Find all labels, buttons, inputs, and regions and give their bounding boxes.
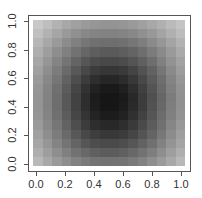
heatmap-cell bbox=[109, 20, 119, 29]
heatmap-cell bbox=[176, 20, 186, 29]
heatmap-cell bbox=[109, 157, 119, 166]
heatmap-cell bbox=[43, 57, 53, 66]
heatmap-cell bbox=[33, 20, 43, 29]
heatmap-cell bbox=[119, 47, 129, 56]
heatmap-cell bbox=[147, 102, 157, 111]
heatmap-cell bbox=[138, 20, 148, 29]
heatmap-cell bbox=[71, 38, 81, 47]
heatmap-cell bbox=[33, 57, 43, 66]
x-tick-label: 0.4 bbox=[79, 178, 109, 190]
heatmap-cell bbox=[90, 157, 100, 166]
heatmap-cell bbox=[33, 47, 43, 56]
heatmap-cell bbox=[43, 84, 53, 93]
heatmap-cell bbox=[119, 57, 129, 66]
heatmap-cell bbox=[147, 20, 157, 29]
heatmap-cell bbox=[109, 148, 119, 157]
heatmap-cell bbox=[43, 66, 53, 75]
heatmap-cell bbox=[100, 66, 110, 75]
heatmap-cell bbox=[166, 102, 176, 111]
heatmap-cell bbox=[119, 84, 129, 93]
heatmap-cell bbox=[157, 75, 167, 84]
heatmap-cell bbox=[119, 157, 129, 166]
heatmap-cell bbox=[166, 75, 176, 84]
heatmap-cell bbox=[157, 29, 167, 38]
heatmap-cell bbox=[81, 102, 91, 111]
heatmap-cell bbox=[166, 120, 176, 129]
heatmap-cell bbox=[62, 93, 72, 102]
heatmap-cell bbox=[100, 130, 110, 139]
y-tick-label: 1.0 bbox=[6, 6, 20, 36]
heatmap-cell bbox=[128, 102, 138, 111]
heatmap-cell bbox=[119, 38, 129, 47]
heatmap-cell bbox=[100, 29, 110, 38]
heatmap-cell bbox=[43, 102, 53, 111]
y-tick-label: 0.4 bbox=[6, 92, 20, 122]
heatmap-cell bbox=[90, 38, 100, 47]
heatmap-cell bbox=[147, 130, 157, 139]
heatmap-cell bbox=[81, 84, 91, 93]
heatmap-cell bbox=[147, 120, 157, 129]
x-tick-label: 1.0 bbox=[166, 178, 196, 190]
heatmap-cell bbox=[71, 139, 81, 148]
heatmap-cell bbox=[62, 157, 72, 166]
heatmap-cell bbox=[147, 75, 157, 84]
heatmap-cell bbox=[147, 148, 157, 157]
y-tick bbox=[24, 50, 28, 51]
heatmap-cell bbox=[52, 66, 62, 75]
heatmap-cell bbox=[119, 120, 129, 129]
heatmap-cell bbox=[71, 157, 81, 166]
heatmap-cell bbox=[62, 75, 72, 84]
heatmap-cell bbox=[109, 57, 119, 66]
heatmap-cell bbox=[52, 139, 62, 148]
heatmap-cell bbox=[166, 57, 176, 66]
heatmap-cell bbox=[109, 139, 119, 148]
heatmap-cell bbox=[147, 157, 157, 166]
heatmap-cell bbox=[147, 93, 157, 102]
y-tick-label: 0.6 bbox=[6, 63, 20, 93]
heatmap-cell bbox=[62, 139, 72, 148]
heatmap-cell bbox=[62, 84, 72, 93]
heatmap-cell bbox=[176, 38, 186, 47]
heatmap-cell bbox=[138, 148, 148, 157]
heatmap-cell bbox=[138, 29, 148, 38]
heatmap-cell bbox=[166, 139, 176, 148]
heatmap-cell bbox=[62, 148, 72, 157]
heatmap-cell bbox=[109, 66, 119, 75]
y-tick-label: 0.0 bbox=[6, 149, 20, 179]
heatmap-cell bbox=[71, 130, 81, 139]
heatmap-cell bbox=[166, 130, 176, 139]
heatmap-cell bbox=[100, 57, 110, 66]
y-tick bbox=[24, 164, 28, 165]
heatmap-cell bbox=[138, 157, 148, 166]
heatmap-cell bbox=[33, 29, 43, 38]
y-tick-label: 0.2 bbox=[6, 120, 20, 150]
heatmap-cell bbox=[109, 120, 119, 129]
heatmap-cell bbox=[138, 47, 148, 56]
heatmap-cell bbox=[90, 47, 100, 56]
heatmap-cell bbox=[90, 120, 100, 129]
heatmap-cell bbox=[119, 75, 129, 84]
heatmap-cell bbox=[33, 38, 43, 47]
heatmap-cell bbox=[138, 38, 148, 47]
heatmap-cell bbox=[52, 57, 62, 66]
heatmap-cell bbox=[43, 29, 53, 38]
heatmap-cell bbox=[43, 93, 53, 102]
heatmap-cell bbox=[90, 93, 100, 102]
x-tick bbox=[94, 172, 95, 176]
heatmap-cell bbox=[138, 139, 148, 148]
heatmap-cell bbox=[138, 75, 148, 84]
heatmap-cell bbox=[119, 139, 129, 148]
heatmap-cell bbox=[176, 47, 186, 56]
heatmap-cell bbox=[90, 130, 100, 139]
heatmap-cell bbox=[166, 84, 176, 93]
y-tick-label: 0.8 bbox=[6, 35, 20, 65]
heatmap-cell bbox=[138, 130, 148, 139]
heatmap-cell bbox=[33, 66, 43, 75]
heatmap-cell bbox=[157, 148, 167, 157]
heatmap-cell bbox=[109, 111, 119, 120]
heatmap-cell bbox=[52, 102, 62, 111]
heatmap-cell bbox=[128, 111, 138, 120]
heatmap-cell bbox=[71, 57, 81, 66]
heatmap-cell bbox=[71, 66, 81, 75]
heatmap-cell bbox=[81, 75, 91, 84]
